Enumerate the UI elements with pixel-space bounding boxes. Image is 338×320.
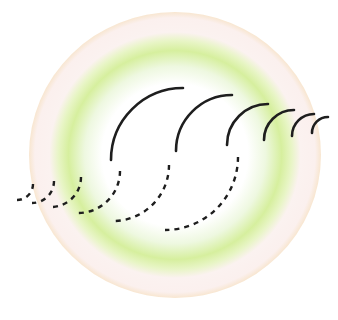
dashed-arc — [17, 184, 33, 200]
gradient-halo-circle — [29, 12, 321, 298]
diagram-canvas — [0, 0, 338, 320]
arc-diagram — [0, 0, 338, 320]
